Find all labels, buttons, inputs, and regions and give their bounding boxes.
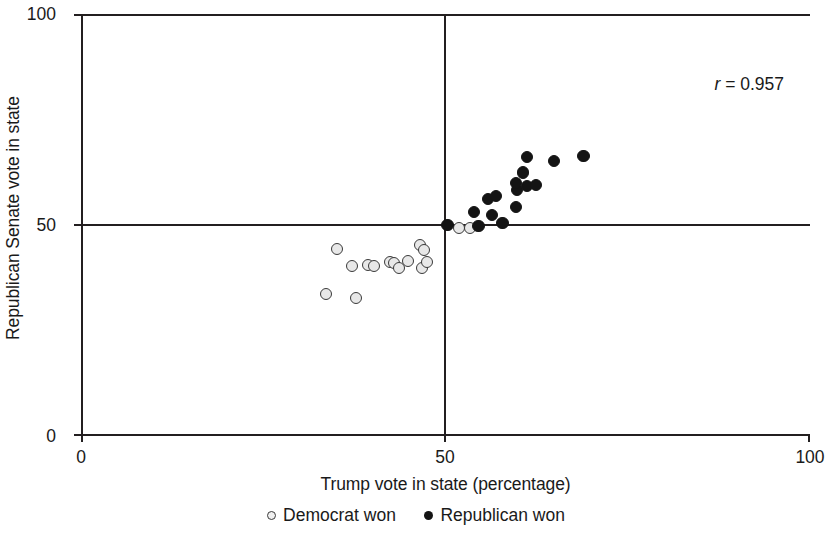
data-point-democrat-won (402, 255, 414, 267)
x-axis-title: Trump vote in state (percentage) (81, 474, 810, 495)
data-point-democrat-won (350, 292, 362, 304)
legend-label-democrat-won: Democrat won (283, 505, 396, 526)
legend-item-republican-won[interactable]: Republican won (424, 505, 565, 526)
data-point-republican-won (510, 201, 523, 214)
data-point-republican-won (530, 179, 543, 192)
plot-area: r = 0.957 (81, 14, 810, 436)
data-point-democrat-won (346, 260, 358, 272)
correlation-annotation: r = 0.957 (714, 74, 784, 95)
data-point-democrat-won (418, 244, 430, 256)
data-point-republican-won (472, 220, 485, 233)
data-point-democrat-won (421, 256, 433, 268)
x-tick-mark-50 (444, 434, 446, 442)
y-tick-label-0: 0 (10, 426, 56, 447)
y-tick-mark-100 (74, 14, 81, 16)
x-tick-label-0: 0 (51, 447, 111, 468)
data-point-republican-won (441, 219, 454, 232)
correlation-symbol: r (714, 74, 720, 94)
x-tick-label-100: 100 (780, 447, 832, 468)
data-point-republican-won (517, 166, 530, 179)
y-tick-mark-50 (74, 224, 81, 226)
x-tick-mark-0 (81, 434, 83, 442)
data-point-republican-won (548, 155, 561, 168)
data-point-republican-won (496, 217, 509, 230)
legend-item-democrat-won[interactable]: Democrat won (267, 505, 396, 526)
data-point-democrat-won (331, 243, 343, 255)
open-circle-icon (267, 511, 276, 520)
y-tick-mark-0 (74, 434, 81, 436)
legend: Democrat won Republican won (0, 505, 832, 526)
legend-label-republican-won: Republican won (440, 505, 565, 526)
data-point-republican-won (490, 190, 503, 203)
data-point-democrat-won (320, 288, 332, 300)
x-tick-mark-100 (808, 434, 810, 442)
scatter-plot-figure: Republican Senate vote in state 100 50 0… (0, 0, 832, 544)
x-tick-label-50: 50 (415, 447, 475, 468)
data-point-republican-won (577, 150, 590, 163)
correlation-value: = 0.957 (725, 74, 784, 94)
data-point-republican-won (468, 206, 481, 219)
filled-circle-icon (424, 511, 434, 521)
data-point-democrat-won (368, 260, 380, 272)
y-tick-label-50: 50 (10, 215, 56, 236)
y-tick-label-100: 100 (10, 4, 56, 25)
data-point-republican-won (521, 151, 534, 164)
